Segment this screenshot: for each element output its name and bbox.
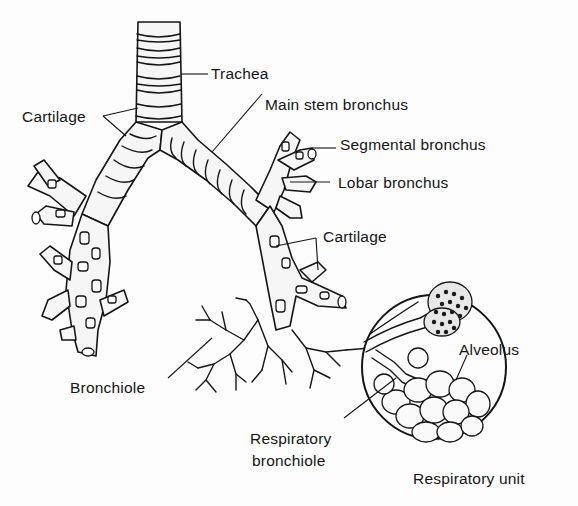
label-respiratory-bronchiole-line2: bronchiole <box>252 452 326 470</box>
label-lobar-bronchus: Lobar bronchus <box>338 174 449 192</box>
label-respiratory-unit: Respiratory unit <box>413 470 525 488</box>
label-trachea: Trachea <box>211 65 269 83</box>
main-bronchi-drawing <box>82 122 270 226</box>
trachea-drawing <box>136 22 182 122</box>
label-alveolus: Alveolus <box>459 341 519 359</box>
respiratory-tree-diagram: Trachea Cartilage Main stem bronchus Seg… <box>0 0 578 506</box>
label-bronchiole: Bronchiole <box>70 379 145 397</box>
label-cartilage-left: Cartilage <box>22 108 86 126</box>
label-segmental-bronchus: Segmental bronchus <box>340 136 486 154</box>
label-main-stem-bronchus: Main stem bronchus <box>265 96 408 114</box>
label-cartilage-right: Cartilage <box>323 228 387 246</box>
label-respiratory-bronchiole-line1: Respiratory <box>250 430 331 448</box>
respiratory-unit-drawing <box>362 282 506 442</box>
